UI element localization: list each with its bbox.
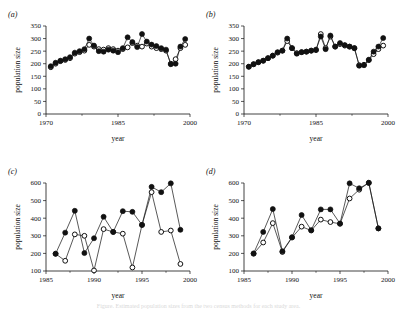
panel-a-ytick-50: 50 xyxy=(34,98,42,106)
panel-d-xtick-1985: 1985 xyxy=(237,276,252,284)
panel-b-point-filled-1989 xyxy=(333,44,338,49)
panel-b-point-filled-1980 xyxy=(290,46,295,51)
panel-a-point-filled-1981 xyxy=(96,49,101,54)
panel-d-point-filled-1993 xyxy=(318,207,323,212)
panel-c-axes: 1002003004005006001985199019952000yearpo… xyxy=(13,179,198,300)
panel-a-point-filled-1973 xyxy=(58,58,63,63)
panel-c-point-open-1997 xyxy=(159,230,164,235)
panel-c-ylabel: population size xyxy=(13,204,22,250)
panel-a-point-filled-1997 xyxy=(173,61,178,66)
panel-b-ytick-150: 150 xyxy=(229,73,240,81)
panel-a-point-filled-1994 xyxy=(159,46,164,51)
panel-c-xtick-1985: 1985 xyxy=(39,276,54,284)
panel-a-plot: (a) 050100150200250300350197019852000yea… xyxy=(0,0,198,157)
panel-d-point-filled-1997 xyxy=(357,186,362,191)
panel-c-xtick-1990: 1990 xyxy=(87,276,102,284)
panel-a-ytick-300: 300 xyxy=(31,35,42,43)
panel-a-point-open-1999 xyxy=(183,42,188,47)
panel-b-point-filled-1987 xyxy=(323,47,328,52)
panel-d-point-filled-1988 xyxy=(270,207,275,212)
panel-b-point-filled-1997 xyxy=(371,49,376,54)
panel-b-point-filled-1972 xyxy=(251,62,256,67)
panel-b-point-filled-1983 xyxy=(304,49,309,54)
panel-b-point-filled-1985 xyxy=(314,47,319,52)
panel-d-point-open-1996 xyxy=(347,196,352,201)
panel-b-axes: 050100150200250300350197019852000yearpop… xyxy=(211,22,396,143)
panel-d-series-line-1 xyxy=(254,183,379,253)
panel-b-label: (b) xyxy=(206,10,216,19)
panel-a-point-filled-1986 xyxy=(120,46,125,51)
panel-a-point-filled-1979 xyxy=(87,36,92,41)
panel-a-point-filled-1989 xyxy=(135,45,140,50)
panel-b-point-filled-1998 xyxy=(376,44,381,49)
panel-c-point-filled-1997 xyxy=(159,190,164,195)
panel-c-point-open-1989 xyxy=(82,233,87,238)
panel-a-point-filled-1974 xyxy=(63,57,68,62)
panel-c-point-filled-1989 xyxy=(82,251,87,256)
panel-d-ytick-500: 500 xyxy=(229,197,240,205)
panel-c-point-filled-1995 xyxy=(140,222,145,227)
panel-d-point-filled-1986 xyxy=(251,251,256,256)
panel-a-point-filled-1978 xyxy=(82,47,87,52)
panel-b-point-filled-1976 xyxy=(270,53,275,58)
panel-b: (b) 050100150200250300350197019852000yea… xyxy=(198,0,396,157)
panel-c-xtick-1995: 1995 xyxy=(135,276,150,284)
panel-b-point-filled-1995 xyxy=(362,63,367,68)
figure-container: (a) 050100150200250300350197019852000yea… xyxy=(0,0,397,314)
panel-c-point-filled-1986 xyxy=(53,251,58,256)
panel-b-point-filled-1977 xyxy=(275,50,280,55)
panel-c-point-open-1996 xyxy=(149,190,154,195)
panel-b-xtick-1985: 1985 xyxy=(309,119,324,127)
panel-b-point-filled-1979 xyxy=(285,36,290,41)
panel-d-point-filled-1996 xyxy=(347,181,352,186)
panel-b-point-filled-1984 xyxy=(309,48,314,53)
panel-a-point-filled-1976 xyxy=(72,50,77,55)
panel-a-point-filled-1988 xyxy=(130,40,135,45)
panel-d-ytick-100: 100 xyxy=(229,267,240,275)
panel-d-axes: 1002003004005006001985199019952000yearpo… xyxy=(211,179,396,300)
panel-c-point-open-1987 xyxy=(63,258,68,263)
panel-a-point-filled-1996 xyxy=(168,62,173,67)
panel-c-ytick-400: 400 xyxy=(31,215,42,223)
panel-a-point-filled-1977 xyxy=(77,49,82,54)
panel-d-point-filled-1990 xyxy=(290,235,295,240)
panel-a-ylabel: population size xyxy=(13,47,22,93)
panel-a-axes: 050100150200250300350197019852000yearpop… xyxy=(13,22,198,143)
panel-a-xlabel: year xyxy=(112,134,125,143)
panel-c-point-open-1998 xyxy=(168,228,173,233)
panel-d: (d) 1002003004005006001985199019952000ye… xyxy=(198,157,396,314)
panel-a-point-open-1990 xyxy=(140,44,145,49)
panel-d-ytick-600: 600 xyxy=(229,179,240,187)
panel-c-ytick-200: 200 xyxy=(31,250,42,258)
panel-d-ytick-400: 400 xyxy=(229,215,240,223)
panel-d-point-open-1994 xyxy=(328,220,333,225)
panel-c-point-filled-1994 xyxy=(130,209,135,214)
panel-c-point-filled-1996 xyxy=(149,184,154,189)
panel-d-point-open-1987 xyxy=(261,240,266,245)
panel-a-point-open-1987 xyxy=(125,45,130,50)
panel-b-point-filled-1993 xyxy=(352,46,357,51)
panel-c-point-filled-1990 xyxy=(92,236,97,241)
panel-a-point-filled-1971 xyxy=(48,64,53,69)
panel-a-point-filled-1984 xyxy=(111,48,116,53)
panel-c-ytick-500: 500 xyxy=(31,197,42,205)
panel-b-point-filled-1986 xyxy=(318,34,323,39)
panel-c-ytick-600: 600 xyxy=(31,179,42,187)
panel-a-ytick-200: 200 xyxy=(31,60,42,68)
panel-c-xtick-2000: 2000 xyxy=(183,276,198,284)
panel-b-point-filled-1992 xyxy=(347,44,352,49)
panel-c-point-filled-1992 xyxy=(111,229,116,234)
panel-d-series-line-0 xyxy=(254,183,379,254)
panel-d-ylabel: population size xyxy=(211,204,220,250)
panel-c-plot: (c) 1002003004005006001985199019952000ye… xyxy=(0,157,198,314)
panel-d-point-open-1991 xyxy=(299,224,304,229)
panel-b-point-filled-1974 xyxy=(261,58,266,63)
panel-a-point-filled-1972 xyxy=(53,60,58,65)
panel-c-point-filled-1987 xyxy=(63,230,68,235)
panel-b-point-filled-1981 xyxy=(294,51,299,56)
panel-c-label: (c) xyxy=(8,167,17,176)
panel-a-point-filled-1999 xyxy=(183,37,188,42)
panel-a-point-filled-1975 xyxy=(68,55,73,60)
panel-d-plot: (d) 1002003004005006001985199019952000ye… xyxy=(198,157,396,314)
panel-c-point-filled-1993 xyxy=(120,209,125,214)
